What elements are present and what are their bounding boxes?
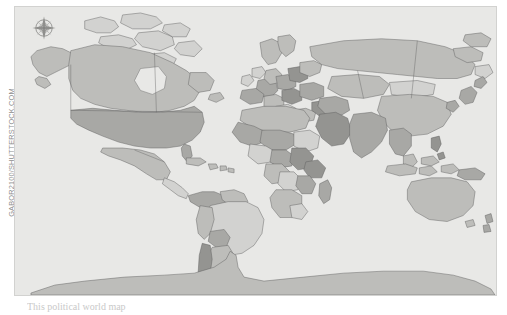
world-map-figure: GABOR2100/SHUTTERSTOCK.COM .l { fill:#e0… (0, 0, 507, 315)
world-map-graphic[interactable]: .l { fill:#e0e0de; stroke:#5c5c5c; strok… (15, 7, 496, 295)
figure-caption: This political world map (27, 301, 126, 314)
map-plate[interactable]: .l { fill:#e0e0de; stroke:#5c5c5c; strok… (14, 6, 497, 296)
